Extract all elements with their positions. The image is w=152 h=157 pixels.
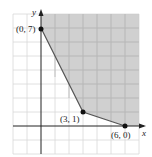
point-0-7 — [39, 27, 44, 32]
point-6-0 — [123, 124, 128, 129]
point-label-0-7: (0, 7) — [16, 24, 36, 34]
x-axis-label: x — [141, 128, 146, 138]
point-3-1 — [81, 110, 86, 115]
y-axis-label: y — [31, 7, 36, 17]
point-label-6-0: (6, 0) — [111, 130, 131, 140]
graph: x y (0, 7) (3, 1) (6, 0) — [0, 0, 152, 157]
y-axis-arrow-icon — [39, 9, 44, 16]
point-label-3-1: (3, 1) — [60, 114, 80, 124]
